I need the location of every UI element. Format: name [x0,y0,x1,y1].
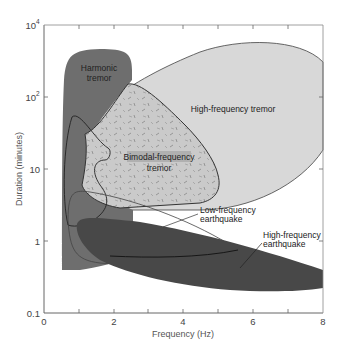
y-tick-label-10e2: 10 [25,92,36,103]
x-axis-title: Frequency (Hz) [152,329,214,339]
y-tick-label-10e4: 10 [25,20,36,31]
y-axis-title: Duration (minutes) [14,132,24,206]
label-high-frequency-earthquake-line2: earthquake [263,239,306,249]
x-tick-label-8: 8 [320,316,325,327]
y-tick-label-10: 10 [29,164,40,175]
y-tick-label-1: 1 [35,236,40,247]
label-harmonic-tremor-line1: Harmonic [81,63,118,73]
label-harmonic-tremor-line2: tremor [87,73,112,83]
x-tick-label-4: 4 [180,316,185,327]
x-tick-label-0: 0 [41,316,46,327]
y-tick-label-10e4-exp: 4 [36,18,40,25]
x-tick-label-6: 6 [250,316,255,327]
label-bimodal-frequency-tremor-line2: tremor [147,163,172,173]
label-bimodal-frequency-tremor-line1: Bimodal-frequency [124,152,196,162]
x-tick-label-2: 2 [111,316,116,327]
y-tick-label-10e2-exp: 2 [36,90,40,97]
label-high-frequency-tremor: High-frequency tremor [191,104,276,114]
y-tick-label-0.1: 0.1 [27,308,40,319]
chart: 0 2 4 6 8 0.1 1 10 10 2 10 4 Frequency (… [0,0,341,353]
label-low-frequency-earthquake-line2: earthquake [200,214,243,224]
